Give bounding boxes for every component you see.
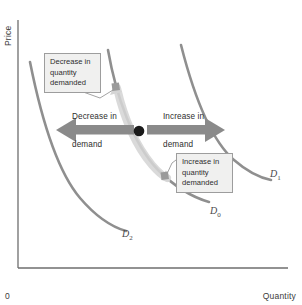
callout-decrease-line-3: demanded [50,78,96,89]
decrease-in-quantity-demanded-marker [112,83,120,91]
increase-in-quantity-demanded-marker [161,172,169,180]
callout-increase-in-quantity-demanded: Increase in quantity demanded [176,153,233,193]
x-axis-label: Quantity [263,291,296,301]
curve-label-d0-subscript: 0 [217,211,221,219]
y-axis-label: Price [3,26,13,46]
decrease-in-demand-label-line-2: demand [72,140,102,149]
callout-increase-line-3: demanded [182,178,228,189]
callout-increase-line-2: quantity [182,168,228,179]
diagram-graphics [0,0,302,305]
callout-decrease-in-quantity-demanded: Decrease in quantity demanded [44,53,101,93]
demand-diagram: Price Quantity 0 D1 D0 D2 Decrease in qu… [0,0,302,305]
origin-label: 0 [5,291,10,301]
equilibrium-point-marker [134,126,145,137]
curve-label-d2: D2 [122,228,133,242]
increase-in-demand-label-line-2: demand [163,140,193,149]
decrease-in-demand-label-line-1: Decrease in [72,112,117,121]
decrease-in-demand-arrow [56,118,134,142]
increase-in-demand-arrow [147,118,225,142]
callout-increase-line-1: Increase in [182,157,228,168]
increase-in-demand-label-line-1: Increase in [163,112,204,121]
callout-decrease-line-2: quantity [50,68,96,79]
callout-decrease-line-1: Decrease in [50,57,96,68]
curve-label-d0: D0 [210,205,221,219]
curve-label-d2-subscript: 2 [129,234,133,242]
curve-label-d1: D1 [270,168,281,182]
curve-label-d1-subscript: 1 [277,174,281,182]
